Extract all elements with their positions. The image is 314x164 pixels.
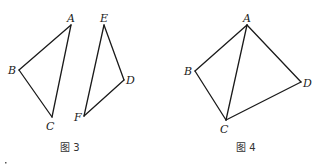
edge-da (247, 25, 301, 82)
vertex-label-b: B (7, 64, 16, 77)
vertex-label-e: E (99, 12, 108, 25)
geometry-diagram: A B C E D F 图 3 A B C D 图 4 (0, 0, 314, 164)
edge-df (84, 80, 124, 116)
figure-3: A B C E D F 图 3 (7, 12, 135, 153)
figure-3-caption: 图 3 (60, 142, 80, 153)
triangle-def (84, 25, 124, 116)
figure-4: A B C D 图 4 (183, 12, 312, 153)
vertex-label-a: A (242, 12, 251, 25)
triangle-abc (19, 25, 71, 117)
edge-ab (195, 25, 247, 71)
vertex-label-f: F (73, 111, 82, 124)
vertex-label-d: D (125, 74, 135, 87)
vertex-label-d: D (302, 77, 312, 90)
quadrilateral-abcd (195, 25, 301, 120)
vertex-label-b: B (183, 65, 192, 78)
edge-bc (195, 71, 226, 120)
stray-dot (5, 162, 7, 164)
vertex-label-c: C (220, 123, 229, 136)
vertex-label-a: A (66, 12, 75, 25)
vertex-label-c: C (46, 120, 55, 133)
diagonal-ac (226, 25, 247, 120)
edge-fe (84, 25, 104, 116)
edge-cd (226, 82, 301, 120)
figure-4-caption: 图 4 (236, 142, 256, 153)
edge-bc (19, 70, 52, 117)
edge-ed (104, 25, 124, 80)
